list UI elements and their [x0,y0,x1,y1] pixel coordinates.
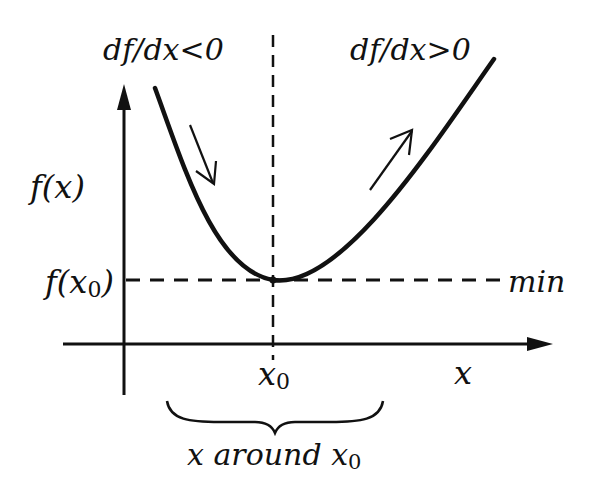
minimum-diagram: df/dx<0 df/dx>0 f(x) f(x0) min x x0 x ar… [0,0,590,485]
x-axis [63,337,553,351]
y-axis [117,84,131,395]
x-axis-label: x [454,354,472,392]
diagram-canvas: df/dx<0 df/dx>0 f(x) f(x0) min x x0 x ar… [0,0,590,485]
y-axis-label: f(x) [28,168,85,206]
decreasing-arrow-icon [190,125,216,184]
slope-positive-label: df/dx>0 [350,32,471,67]
neighborhood-brace [167,401,383,433]
min-value-label: f(x0) [43,263,114,302]
minimum-point [270,277,277,284]
x-axis-arrowhead-icon [527,337,553,351]
neighborhood-label: x around x0 [187,437,361,474]
function-curve [155,59,494,281]
slope-negative-label: df/dx<0 [103,32,224,67]
x0-tick-label: x0 [258,355,290,394]
min-tag-label: min [508,264,565,299]
y-axis-arrowhead-icon [117,84,131,110]
